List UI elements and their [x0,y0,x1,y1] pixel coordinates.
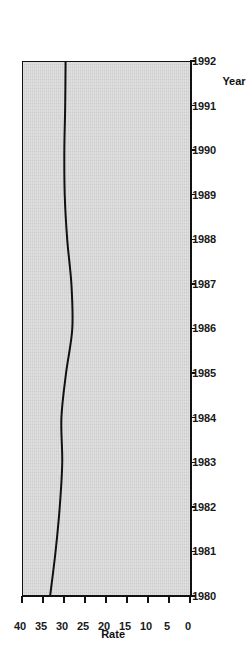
rate-tick [147,596,148,603]
year-tick-label: 1981 [182,545,226,557]
y-axis-title: Rate [79,628,125,640]
rate-tick [21,596,22,603]
chart-rotation-wrapper: 1980198119821983198419851986198719881989… [0,0,252,651]
x-axis-title: Year [204,75,252,87]
rate-tick [126,596,127,603]
year-tick-label: 1990 [182,144,226,156]
rate-tick [84,596,85,603]
plot-area [22,61,190,596]
rate-tick-label: 40 [3,620,37,632]
rate-series-line [23,62,190,596]
year-tick-label: 1985 [182,367,226,379]
year-tick-label: 1983 [182,456,226,468]
year-tick-label: 1991 [182,100,226,112]
year-tick-label: 1984 [182,412,226,424]
rate-tick [42,596,43,603]
year-tick-label: 1989 [182,189,226,201]
year-tick-label: 1988 [182,233,226,245]
year-tick-label: 1987 [182,278,226,290]
rate-tick [63,596,64,603]
rate-line-path [50,62,73,596]
rate-tick [105,596,106,603]
rate-tick [189,596,190,603]
year-tick-label: 1986 [182,323,226,335]
year-tick-label: 1982 [182,501,226,513]
line-chart-figure: 1980198119821983198419851986198719881989… [0,0,252,651]
year-tick-label: 1992 [182,55,226,67]
rate-tick [168,596,169,603]
